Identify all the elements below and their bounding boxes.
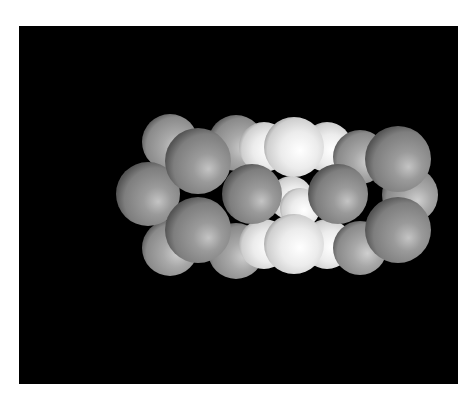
atom-sphere-white — [264, 214, 324, 274]
atom-sphere-gray — [365, 126, 431, 192]
atom-sphere-white — [264, 117, 324, 177]
atom-sphere-gray — [222, 164, 282, 224]
atom-sphere-gray — [165, 197, 231, 263]
molecule-viewport — [19, 26, 458, 384]
atom-sphere-gray — [165, 128, 231, 194]
molecule-spacefill-render — [19, 26, 458, 384]
atom-sphere-gray — [365, 197, 431, 263]
atom-sphere-gray — [308, 164, 368, 224]
